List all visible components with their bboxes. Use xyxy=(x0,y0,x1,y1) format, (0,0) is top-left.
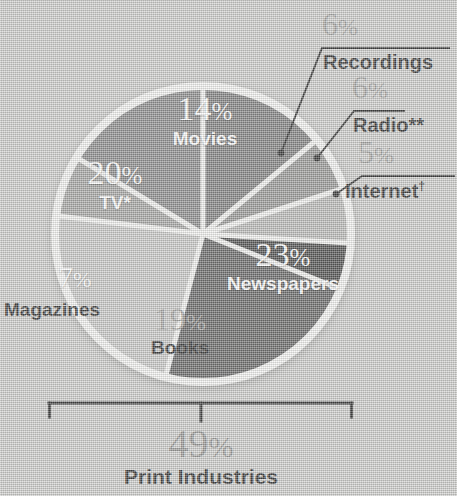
tv-name: TV* xyxy=(60,193,170,212)
slice-label-tv: 20% TV* xyxy=(60,156,170,212)
infographic-pie-chart: 14% Movies 20% TV* 23% Newspapers 19% Bo… xyxy=(0,0,457,496)
newspapers-percent: 23 xyxy=(256,236,290,273)
magazines-percent-symbol: % xyxy=(73,267,91,292)
print-industries-label: 49% Print Industries xyxy=(101,424,301,487)
internet-footnote-marker: † xyxy=(418,179,425,193)
magazines-percent: 7 xyxy=(58,260,73,293)
slice-label-magazines-percent: 7% xyxy=(58,262,91,292)
tv-percent: 20 xyxy=(88,154,122,191)
newspapers-percent-symbol: % xyxy=(290,244,311,271)
movies-name: Movies xyxy=(155,129,255,148)
print-percent-symbol: % xyxy=(209,430,234,463)
slice-label-newspapers: 23% Newspapers xyxy=(218,238,348,293)
movies-percent-symbol: % xyxy=(212,98,233,125)
slice-label-books: 19% Books xyxy=(125,303,235,357)
print-percent: 49 xyxy=(169,421,209,466)
callout-radio-percent: 6% xyxy=(352,71,388,103)
books-percent: 19 xyxy=(154,301,186,337)
slice-label-movies: 14% Movies xyxy=(155,92,255,148)
internet-percent-symbol: % xyxy=(374,142,394,168)
radio-percent: 6 xyxy=(352,69,368,105)
radio-name: Radio** xyxy=(353,115,424,135)
tv-percent-symbol: % xyxy=(122,162,143,189)
internet-percent: 5 xyxy=(358,134,374,170)
internet-name-group: Internet† xyxy=(345,180,425,201)
internet-name: Internet xyxy=(345,180,418,202)
print-industries-bracket xyxy=(49,403,352,421)
movies-percent: 14 xyxy=(178,90,212,127)
callout-recordings-percent: 6% xyxy=(322,8,358,40)
recordings-name: Recordings xyxy=(323,52,433,72)
books-percent-symbol: % xyxy=(186,309,206,335)
magazines-name: Magazines xyxy=(4,300,100,319)
recordings-percent: 6 xyxy=(322,6,338,42)
radio-percent-symbol: % xyxy=(368,77,388,103)
callout-internet-percent: 5% xyxy=(358,136,394,168)
books-name: Books xyxy=(125,338,235,357)
newspapers-name: Newspapers xyxy=(218,274,348,293)
print-name: Print Industries xyxy=(101,466,301,487)
recordings-percent-symbol: % xyxy=(338,14,358,40)
